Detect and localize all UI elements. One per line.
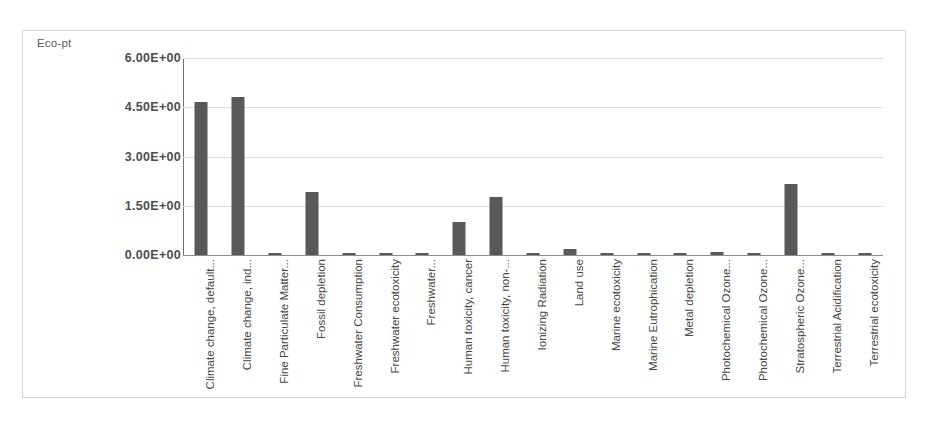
bar[interactable] bbox=[195, 102, 208, 255]
category-axis-tick-label: Freshwater... bbox=[426, 259, 438, 325]
value-axis-title: Eco-pt bbox=[37, 37, 71, 49]
bar[interactable] bbox=[711, 252, 724, 255]
value-axis-tick-label: 3.00E+00 bbox=[125, 150, 181, 164]
category-axis-tick-label: Human toxicity, non-... bbox=[500, 259, 512, 373]
category-axis-tick-label: Terrestrial Acidification bbox=[832, 259, 844, 373]
bar-slot bbox=[220, 58, 257, 255]
bar[interactable] bbox=[232, 97, 245, 255]
bar-slot bbox=[736, 58, 773, 255]
bar[interactable] bbox=[305, 192, 318, 255]
bar[interactable] bbox=[821, 253, 834, 255]
category-axis-tick-label: Climate change, default... bbox=[205, 259, 217, 389]
bar[interactable] bbox=[490, 197, 503, 255]
category-axis-tick-label: Terrestrial ecotoxicity bbox=[869, 259, 881, 366]
bar-slot bbox=[515, 58, 552, 255]
bar-slot bbox=[404, 58, 441, 255]
category-axis-tick-label: Fine Particulate Matter... bbox=[279, 259, 291, 384]
value-axis-tick-label: 1.50E+00 bbox=[125, 199, 181, 213]
bar[interactable] bbox=[416, 253, 429, 255]
bar-slot bbox=[294, 58, 331, 255]
category-axis-tick-label: Climate change, ind... bbox=[242, 259, 254, 370]
bar-slot bbox=[367, 58, 404, 255]
category-axis-tick-label: Metal depletion bbox=[684, 259, 696, 337]
bar-slot bbox=[441, 58, 478, 255]
bar-slot bbox=[478, 58, 515, 255]
bar-slot bbox=[662, 58, 699, 255]
category-axis-tick-label: Freshwater Consumption bbox=[353, 259, 365, 387]
value-axis-tick-label: 0.00E+00 bbox=[125, 248, 181, 262]
bar-slot bbox=[551, 58, 588, 255]
category-axis-tick-label: Fossil depletion bbox=[316, 259, 328, 339]
bar[interactable] bbox=[342, 253, 355, 255]
plot-area: 0.00E+001.50E+003.00E+004.50E+006.00E+00… bbox=[183, 58, 883, 255]
category-axis-tick-label: Marine Eutrophication bbox=[648, 259, 660, 371]
bar[interactable] bbox=[526, 253, 539, 255]
bar[interactable] bbox=[784, 184, 797, 255]
category-axis-tick-label: Photochemical Ozone... bbox=[721, 259, 733, 381]
category-axis-tick-label: Marine ecotoxicity bbox=[611, 259, 623, 351]
category-axis-tick-label: Ionizing Radiation bbox=[537, 259, 549, 350]
bar-slot bbox=[846, 58, 883, 255]
category-axis-line bbox=[183, 255, 883, 256]
category-axis-tick-label: Human toxicity, cancer bbox=[463, 259, 475, 374]
bar-slot bbox=[588, 58, 625, 255]
bar[interactable] bbox=[379, 253, 392, 255]
bar[interactable] bbox=[674, 253, 687, 255]
value-axis-tick-label: 6.00E+00 bbox=[125, 51, 181, 65]
category-axis-tick-label: Freshwater ecotoxicity bbox=[390, 259, 402, 373]
bar[interactable] bbox=[858, 253, 871, 255]
category-axis-tick-label: Land use bbox=[574, 259, 586, 306]
category-axis-tick-label: Photochemical Ozone... bbox=[758, 259, 770, 381]
bar-slot bbox=[772, 58, 809, 255]
bar-slot bbox=[330, 58, 367, 255]
bar[interactable] bbox=[748, 253, 761, 255]
bar[interactable] bbox=[637, 253, 650, 255]
bar[interactable] bbox=[269, 253, 282, 255]
bar-slot bbox=[625, 58, 662, 255]
category-axis-tick-label: Stratospheric Ozone... bbox=[795, 259, 807, 373]
bar-slot bbox=[699, 58, 736, 255]
bar-slot bbox=[257, 58, 294, 255]
chart-container: Eco-pt 0.00E+001.50E+003.00E+004.50E+006… bbox=[22, 30, 906, 398]
bar[interactable] bbox=[453, 222, 466, 255]
bar[interactable] bbox=[563, 249, 576, 255]
bar[interactable] bbox=[600, 253, 613, 255]
value-axis-tick-label: 4.50E+00 bbox=[125, 100, 181, 114]
bar-slot bbox=[809, 58, 846, 255]
bar-slot bbox=[183, 58, 220, 255]
